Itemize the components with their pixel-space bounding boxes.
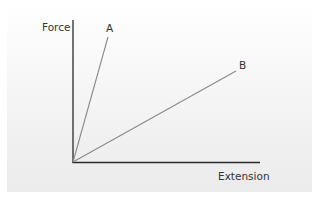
y-axis-label: Force (42, 21, 70, 33)
x-axis-label: Extension (218, 170, 270, 182)
line-a-label: A (106, 22, 114, 34)
line-b (73, 71, 236, 162)
line-b-label: B (239, 59, 246, 71)
force-extension-diagram: Force A B Extension (0, 0, 320, 199)
line-a (73, 37, 108, 162)
